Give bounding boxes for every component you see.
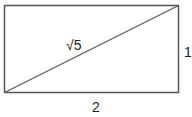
height-label: 1 [184,44,192,60]
rectangle-diagonal-diagram: √5 1 2 [0,0,192,117]
width-label: 2 [92,99,100,115]
diagonal-label: √5 [66,37,82,53]
diagonal-line [5,6,179,93]
